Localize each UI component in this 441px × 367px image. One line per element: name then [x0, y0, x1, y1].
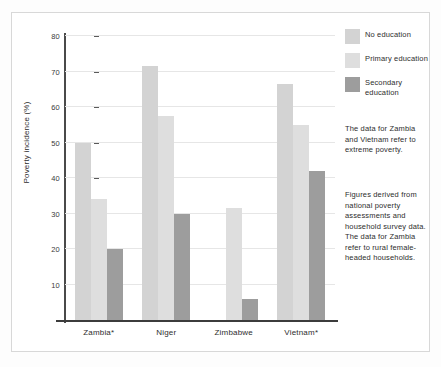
bar-primary-education — [91, 199, 107, 320]
legend-label: Secondary education — [365, 77, 431, 97]
legend-swatch-icon — [345, 53, 360, 68]
bar-group — [200, 36, 268, 320]
legend-label: Primary education — [365, 53, 428, 64]
bar-primary-education — [226, 208, 242, 320]
y-tick-label: 40 — [36, 174, 60, 183]
y-tick-label: 60 — [36, 103, 60, 112]
legend-swatch-icon — [345, 77, 360, 92]
y-axis-title: Poverty incidence (%) — [22, 53, 31, 233]
bar-group — [268, 36, 336, 320]
plot-area — [65, 36, 335, 320]
bar-no-education — [277, 84, 293, 320]
bar-secondary-education — [309, 171, 325, 320]
bar-no-education — [75, 143, 91, 321]
y-axis-ticks: 8070605040302010 — [34, 36, 60, 320]
legend-swatch-icon — [345, 29, 360, 44]
bar-no-education — [142, 66, 158, 320]
y-tick-label: 80 — [36, 32, 60, 41]
y-tick-label: 20 — [36, 245, 60, 254]
bar-primary-education — [293, 125, 309, 320]
x-axis-line — [56, 320, 338, 322]
x-axis-label: Vietnam* — [268, 328, 336, 337]
y-tick-label: 10 — [36, 280, 60, 289]
x-axis-label: Zambia* — [65, 328, 133, 337]
legend-item: Primary education — [345, 53, 431, 68]
y-tick-label: 30 — [36, 209, 60, 218]
legend-item: Secondary education — [345, 77, 431, 97]
note-extreme-poverty: The data for Zambia and Vietnam refer to… — [345, 124, 427, 156]
chart-figure: Poverty incidence (%) 8070605040302010 Z… — [0, 0, 441, 367]
bar-group — [133, 36, 201, 320]
bar-primary-education — [158, 116, 174, 320]
x-axis-label: Zimbabwe — [200, 328, 268, 337]
bar-secondary-education — [107, 249, 123, 320]
legend-label: No education — [365, 29, 411, 40]
chart-legend: No educationPrimary educationSecondary e… — [345, 29, 431, 106]
y-tick-label: 70 — [36, 67, 60, 76]
note-data-source: Figures derived from national poverty as… — [345, 190, 427, 264]
x-axis-label: Niger — [133, 328, 201, 337]
legend-item: No education — [345, 29, 431, 44]
bar-secondary-education — [174, 214, 190, 321]
bar-secondary-education — [242, 299, 258, 320]
y-tick-label: 50 — [36, 138, 60, 147]
bar-group — [65, 36, 133, 320]
